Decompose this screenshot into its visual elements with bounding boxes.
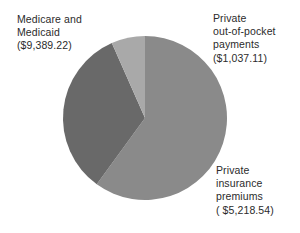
pie-label-private-insurance-premiums-value: ( $5,218.54): [216, 204, 274, 217]
pie-label-private-insurance-premiums: Private insurance premiums ( $5,218.54): [216, 164, 274, 217]
pie-label-private-out-of-pocket-line2: out-of-pocket: [213, 25, 276, 38]
pie-label-private-insurance-premiums-line1: Private: [216, 164, 274, 177]
pie-label-medicare-medicaid-value: ($9,389.22): [17, 39, 82, 52]
pie-label-medicare-medicaid-line2: Medicaid: [17, 26, 82, 39]
pie-label-private-out-of-pocket: Private out-of-pocket payments ($1,037.1…: [213, 12, 276, 65]
pie-label-private-out-of-pocket-value: ($1,037.11): [213, 52, 276, 65]
pie-slices: [63, 36, 227, 200]
pie-chart-figure: Medicare and Medicaid ($9,389.22) Privat…: [0, 0, 300, 233]
pie-label-medicare-medicaid-line1: Medicare and: [17, 13, 82, 26]
pie-label-private-out-of-pocket-line1: Private: [213, 12, 276, 25]
pie-label-medicare-medicaid: Medicare and Medicaid ($9,389.22): [17, 13, 82, 53]
pie-label-private-insurance-premiums-line2: insurance: [216, 177, 274, 190]
pie-label-private-out-of-pocket-line3: payments: [213, 38, 276, 51]
pie-label-private-insurance-premiums-line3: premiums: [216, 190, 274, 203]
